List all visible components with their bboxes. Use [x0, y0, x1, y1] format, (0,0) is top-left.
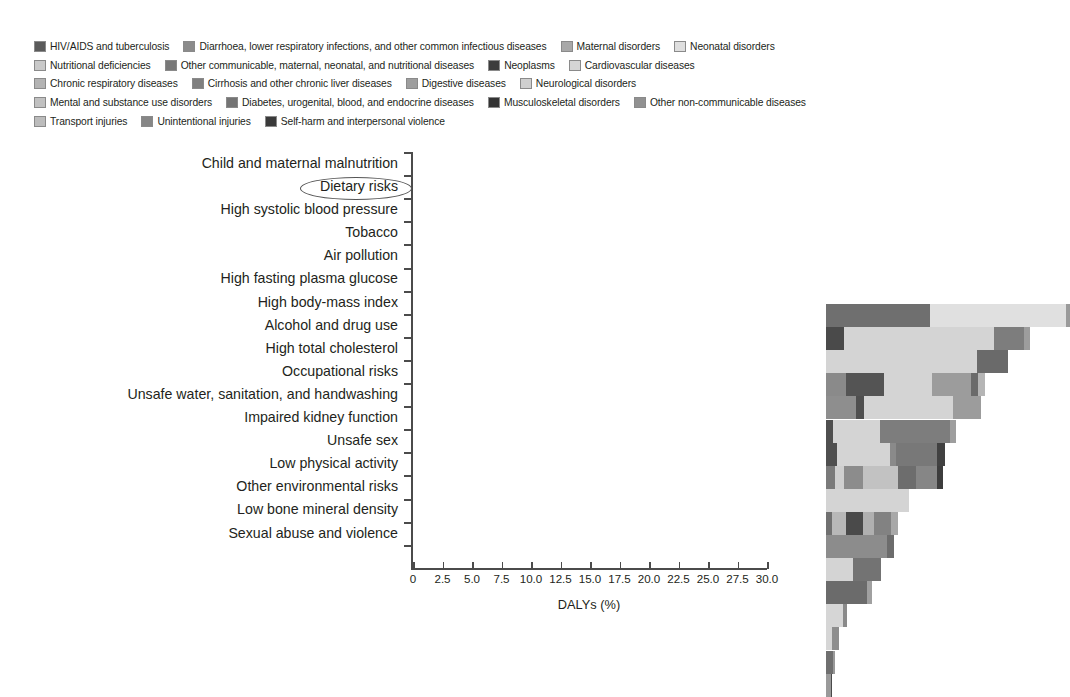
bar-segment[interactable]	[826, 396, 856, 419]
bar-segment[interactable]	[978, 373, 985, 396]
bar-segment[interactable]	[826, 466, 835, 489]
bar-segment[interactable]	[884, 373, 932, 396]
bar-segment[interactable]	[1066, 304, 1070, 327]
bar-segment[interactable]	[826, 581, 867, 604]
bar-segment[interactable]	[844, 327, 994, 350]
y-axis-tick	[404, 337, 412, 339]
x-axis-tick	[561, 562, 563, 569]
bar-segment[interactable]	[853, 558, 881, 581]
bar-segment[interactable]	[832, 512, 846, 535]
bar-segment[interactable]	[837, 443, 890, 466]
bar-segment[interactable]	[891, 512, 898, 535]
x-axis-tick-label: 7.5	[493, 572, 509, 585]
bar-row[interactable]	[826, 443, 945, 466]
bar-row[interactable]	[826, 350, 1008, 373]
bar-segment[interactable]	[953, 396, 980, 419]
bar-row[interactable]	[826, 535, 894, 558]
bar-segment[interactable]	[831, 674, 832, 697]
bar-segment[interactable]	[863, 512, 875, 535]
y-axis-tick	[404, 268, 412, 270]
bar-segment[interactable]	[826, 327, 844, 350]
bar-segment[interactable]	[937, 466, 943, 489]
bar-segment[interactable]	[977, 350, 1008, 373]
y-axis-tick	[404, 221, 412, 223]
bar-segment[interactable]	[826, 443, 837, 466]
bar-segment[interactable]	[896, 443, 937, 466]
y-axis-tick	[404, 175, 412, 177]
bar-segment[interactable]	[887, 535, 894, 558]
bar-segment[interactable]	[846, 373, 884, 396]
bar-row[interactable]	[826, 396, 981, 419]
bar-segment[interactable]	[994, 327, 1025, 350]
x-axis-title: DALYs (%)	[411, 597, 767, 612]
x-axis-tick-label: 15.0	[579, 572, 602, 585]
bar-segment[interactable]	[826, 373, 846, 396]
y-axis-label: Sexual abuse and violence	[60, 522, 405, 545]
bar-segment[interactable]	[863, 466, 898, 489]
bar-segment[interactable]	[1024, 327, 1030, 350]
y-axis-tick	[404, 545, 412, 547]
bar-segment[interactable]	[874, 512, 891, 535]
bar-segment[interactable]	[826, 489, 909, 512]
bar-segment[interactable]	[846, 512, 863, 535]
bar-segment[interactable]	[867, 581, 872, 604]
bar-segment[interactable]	[864, 396, 954, 419]
y-axis-label: Occupational risks	[60, 360, 405, 383]
bar-row[interactable]	[826, 420, 956, 443]
bar-row[interactable]	[826, 373, 985, 396]
y-axis-label: Impaired kidney function	[60, 406, 405, 429]
bar-segment[interactable]	[937, 443, 945, 466]
x-axis-tick	[620, 562, 622, 569]
bar-segment[interactable]	[826, 350, 977, 373]
bar-segment[interactable]	[932, 373, 971, 396]
bar-segment[interactable]	[826, 604, 843, 627]
bar-row[interactable]	[826, 581, 872, 604]
x-axis-tick-label: 10.0	[520, 572, 543, 585]
bar-segment[interactable]	[833, 651, 835, 674]
bar-segment[interactable]	[880, 420, 950, 443]
y-axis-tick	[404, 198, 412, 200]
y-axis-tick	[404, 499, 412, 501]
x-axis-tick-label: 17.5	[608, 572, 631, 585]
y-axis-label: Unsafe sex	[60, 429, 405, 452]
bar-segment[interactable]	[832, 627, 839, 650]
bar-segment[interactable]	[971, 373, 978, 396]
x-axis-tick-label: 12.5	[549, 572, 572, 585]
bar-row[interactable]	[826, 512, 898, 535]
bar-segment[interactable]	[916, 466, 937, 489]
bar-segment[interactable]	[826, 535, 887, 558]
bar-row[interactable]	[826, 604, 847, 627]
y-axis-tick	[404, 291, 412, 293]
bar-segment[interactable]	[826, 651, 833, 674]
y-axis-tick	[404, 244, 412, 246]
bar-row[interactable]	[826, 489, 909, 512]
bar-row[interactable]	[826, 466, 943, 489]
bar-segment[interactable]	[930, 304, 1066, 327]
bar-segment[interactable]	[826, 420, 833, 443]
bar-segment[interactable]	[835, 466, 843, 489]
bar-segment[interactable]	[833, 420, 880, 443]
y-axis-category-labels: Child and maternal malnutritionDietary r…	[60, 152, 405, 545]
bar-row[interactable]	[826, 674, 832, 697]
bar-segment[interactable]	[898, 466, 916, 489]
y-axis-tick	[404, 522, 412, 524]
x-axis-tick-label: 30.0	[756, 572, 779, 585]
bar-segment[interactable]	[843, 604, 848, 627]
bar-row[interactable]	[826, 558, 881, 581]
y-axis-label: Other environmental risks	[60, 475, 405, 498]
bar-segment[interactable]	[950, 420, 956, 443]
bar-row[interactable]	[826, 627, 839, 650]
bar-row[interactable]	[826, 304, 1070, 327]
bar-row[interactable]	[826, 651, 835, 674]
bar-segment[interactable]	[856, 396, 864, 419]
x-axis-tick	[413, 562, 415, 569]
y-axis-label: High body-mass index	[60, 291, 405, 314]
x-axis-tick-label: 25.0	[697, 572, 720, 585]
bar-segment[interactable]	[844, 466, 863, 489]
bar-segment[interactable]	[826, 304, 930, 327]
x-axis-tick	[531, 562, 533, 569]
bar-row[interactable]	[826, 327, 1030, 350]
bar-segment[interactable]	[826, 558, 853, 581]
x-axis-tick-label: 27.5	[726, 572, 749, 585]
x-axis-tick	[767, 562, 769, 569]
